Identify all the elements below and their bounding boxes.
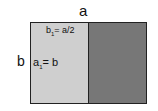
right-half-rectangle xyxy=(88,22,147,104)
width-label-a: a xyxy=(79,2,87,19)
b1-equation-label: b1= a/2 xyxy=(46,25,75,37)
b1-rest: = a/2 xyxy=(54,25,74,35)
a1-equation-label: a1= b xyxy=(33,56,58,70)
a1-rest: = b xyxy=(42,56,58,68)
height-label-b: b xyxy=(17,53,25,69)
